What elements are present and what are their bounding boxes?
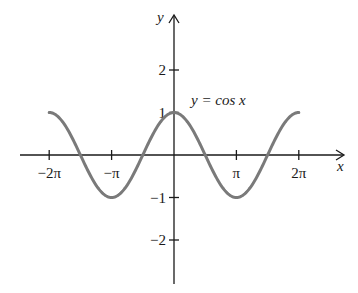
x-tick-label: −2π xyxy=(37,165,61,181)
x-tick-label: −π xyxy=(104,165,120,181)
equation-annotation: y = cos x xyxy=(189,92,246,108)
x-tick-label: π xyxy=(233,165,241,181)
y-tick-label: −2 xyxy=(150,232,166,248)
cosine-plot: −2π−ππ2π 21−1−2 y x y = cos x xyxy=(0,0,358,293)
x-tick-label: 2π xyxy=(291,165,307,181)
y-axis-label: y xyxy=(155,9,164,25)
y-tick-label: −1 xyxy=(150,190,166,206)
x-axis-label: x xyxy=(336,158,344,174)
y-tick-label: 2 xyxy=(159,62,167,78)
equation-text: y = cos x xyxy=(189,92,246,108)
